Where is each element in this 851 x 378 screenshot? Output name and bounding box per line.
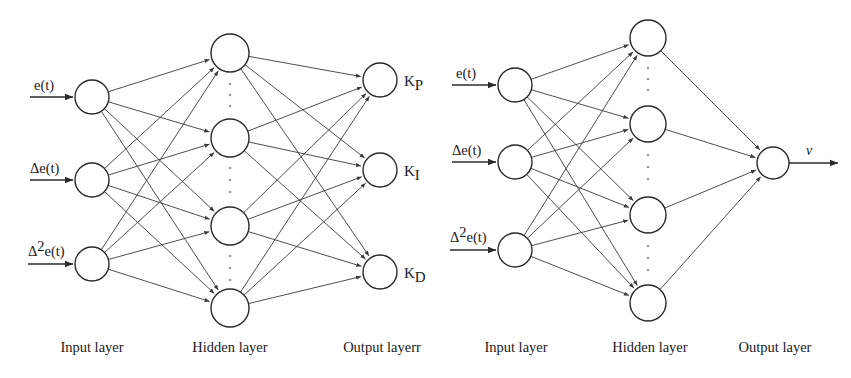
edge-input-hidden [527,52,633,150]
ellipsis-dot [229,267,232,270]
edge-hidden-output [248,232,361,267]
edge-hidden-output [661,51,760,150]
io-arrows-layer [28,85,838,264]
ellipsis-dot [647,78,650,81]
output-label: KI [404,163,420,183]
neural-network-diagram-canvas: e(t)Δe(t)Δ2e(t)KPKIKDInput layerHidden l… [0,0,851,378]
layer-caption: Hidden layer [612,339,687,355]
edge-input-hidden [531,90,628,118]
ellipsis-dot [647,154,650,157]
hidden-neuron [211,207,249,245]
edge-hidden-output [665,129,755,157]
hidden-neuron [630,20,666,56]
layer-caption: Input layer [60,339,123,355]
ellipsis-dot [647,257,650,260]
edge-input-hidden [524,55,637,235]
ellipsis-dot [647,269,650,272]
ellipsis-dot [229,179,232,182]
edge-input-hidden [104,192,214,294]
input-neuron [75,80,109,114]
ellipsis-dot [647,166,650,169]
input-neuron [498,68,532,102]
hidden-neuron [211,119,249,157]
hidden-neuron [630,285,666,321]
hidden-neuron [630,197,666,233]
edge-input-hidden [531,45,629,80]
ellipsis-dot [229,83,232,86]
layer-caption: Hidden layer [192,339,267,355]
edge-input-hidden [101,71,218,250]
edge-hidden-output [244,151,365,259]
ellipsis-dot [229,105,232,108]
ellipsis-dot [647,245,650,248]
labels-layer: e(t)Δe(t)Δ2e(t)KPKIKDInput layerHidden l… [28,65,813,355]
edge-hidden-output [248,87,362,131]
input-signal-label: e(t) [34,77,54,94]
input-signal-label: Δe(t) [452,142,482,159]
output-label: v [806,143,813,158]
edge-input-hidden [108,269,209,301]
layer-caption: Input layer [484,339,547,355]
edge-hidden-output [248,277,361,304]
ellipsis-dot [229,279,232,282]
output-neuron [363,255,397,289]
edge-input-hidden [531,256,629,295]
input-neuron [498,145,532,179]
edge-input-hidden [531,220,628,245]
input-signal-label: e(t) [456,65,476,82]
edge-input-hidden [108,232,209,260]
nodes-layer [75,20,789,327]
input-signal-label: Δ2e(t) [28,238,65,260]
ellipsis-dot [647,89,650,92]
edge-input-hidden [108,102,209,132]
edge-input-hidden [101,111,218,290]
layer-caption: Output layerr [343,339,421,355]
edge-hidden-output [248,177,362,220]
edge-hidden-output [660,177,761,290]
edge-hidden-output [249,56,361,76]
ellipsis-dot [229,191,232,194]
edges-layer [101,45,760,304]
edge-input-hidden [108,60,209,92]
ellipsis-dot [229,167,232,170]
ellipsis-dot [229,94,232,97]
output-neuron [363,63,397,97]
hidden-neuron [211,34,249,72]
edge-input-hidden [527,97,633,201]
input-signal-label: Δ2e(t) [450,224,487,246]
input-neuron [498,233,532,267]
output-neuron [363,153,397,187]
edge-hidden-output [241,69,369,256]
input-neuron [75,247,109,281]
layer-caption: Output layer [739,339,812,355]
edge-input-hidden [105,152,215,252]
ellipsis-dot [647,67,650,70]
edge-hidden-output [244,183,366,295]
edge-input-hidden [524,100,637,286]
output-label: KD [404,265,426,285]
input-neuron [75,163,109,197]
edge-hidden-output [245,65,365,158]
diagram-page: e(t)Δe(t)Δ2e(t)KPKIKDInput layerHidden l… [0,0,851,378]
hidden-neuron [211,289,249,327]
edge-input-hidden [105,68,215,169]
output-neuron [757,147,789,179]
ellipsis-dot [229,255,232,258]
input-signal-label: Δe(t) [30,160,60,177]
edge-hidden-output [665,170,756,208]
edge-input-hidden [108,185,209,219]
ellipsis-dot [647,178,650,181]
output-label: KP [404,73,423,93]
ellipsis-layer [229,67,650,282]
hidden-neuron [630,106,666,142]
